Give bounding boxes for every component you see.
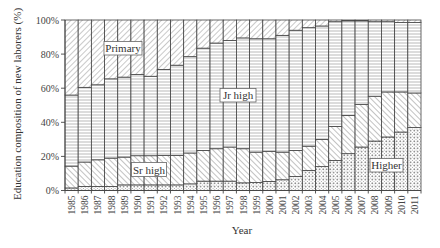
segment-higher [131,185,144,191]
bar-2001 [276,20,289,191]
segment-primary [78,20,91,87]
segment-primary [289,20,302,30]
y-axis-title: Education composition of new laborers (%… [11,8,24,200]
bar-2007 [355,20,368,191]
segment-higher [263,181,276,190]
segment-jr-high [118,77,131,157]
segment-sr-high [342,115,355,153]
segment-jr-high [263,39,276,152]
segment-higher [210,181,223,190]
segment-higher [78,186,91,190]
bar-1995 [197,20,210,191]
x-tick-label: 2011 [410,195,420,214]
bar-1999 [250,20,263,191]
segment-primary [355,20,368,21]
bar-1986 [78,20,91,191]
segment-jr-high [184,57,197,153]
segment-higher [197,181,210,190]
segment-primary [276,20,289,35]
x-tick-label: 2007 [357,195,367,214]
segment-sr-high [276,152,289,180]
segment-jr-high [368,22,381,97]
x-tick-label: 2004 [318,195,328,214]
x-tick-label: 2003 [304,195,314,214]
label-sr-high: Sr high [132,163,167,177]
segment-sr-high [78,162,91,186]
segment-higher [184,184,197,191]
segment-sr-high [355,105,368,147]
segment-jr-high [157,69,170,155]
segment-primary [197,20,210,48]
segment-jr-high [289,30,302,150]
bar-1994 [184,20,197,191]
x-axis-title: Year [232,224,253,236]
label-primary-text: Primary [105,42,141,54]
segment-sr-high [395,92,408,132]
y-axis: 0%20%40%60%80%100% [36,15,65,197]
segment-jr-high [395,23,408,92]
segment-primary [144,20,157,76]
bar-1998 [236,20,249,191]
segment-sr-high [236,149,249,183]
segment-primary [368,20,381,22]
bar-2011 [408,20,421,191]
segment-higher [223,181,236,190]
segment-higher [289,177,302,191]
segment-jr-high [197,48,210,150]
bar-1987 [91,20,104,191]
x-tick-label: 1991 [146,195,156,214]
segment-sr-high [368,96,381,141]
x-tick-label: 1995 [199,195,209,214]
segment-sr-high [263,151,276,181]
y-tick-label: 20% [41,151,59,162]
label-sr-high-text: Sr high [133,164,166,176]
segment-higher [105,186,118,190]
label-jr-high: Jr high [220,89,256,103]
segment-jr-high [342,21,355,116]
segment-jr-high [276,35,289,152]
segment-jr-high [408,23,421,93]
segment-higher [157,185,170,191]
segment-jr-high [329,22,342,127]
x-tick-label: 1992 [159,195,169,214]
segment-primary [91,20,104,85]
x-tick-label: 2005 [331,195,341,214]
segment-sr-high [316,139,329,166]
segment-jr-high [65,95,78,166]
segment-higher [302,170,315,190]
segment-jr-high [170,65,183,155]
segment-higher [355,147,368,190]
x-tick-label: 2006 [344,195,354,214]
segment-primary [236,20,249,38]
segment-sr-high [302,146,315,170]
segment-sr-high [289,150,302,176]
x-tick-label: 2001 [278,195,288,214]
segment-higher [276,180,289,191]
bar-1996 [210,20,223,191]
segment-primary [170,20,183,65]
x-tick-label: 2000 [265,195,275,214]
bar-1997 [223,20,236,191]
segment-jr-high [381,22,394,92]
segment-primary [223,20,236,40]
segment-higher [118,185,131,191]
segment-sr-high [105,158,118,186]
segment-sr-high [381,92,394,137]
x-tick-label: 2008 [370,195,380,214]
x-tick-label: 2002 [291,195,301,214]
bar-2004 [316,20,329,191]
segment-jr-high [91,85,104,160]
segment-sr-high [170,155,183,184]
label-higher: Higher [370,159,403,173]
segment-higher [250,182,263,190]
bar-1993 [170,20,183,191]
x-tick-label: 1985 [67,195,77,214]
segment-primary [329,20,342,22]
segment-sr-high [118,157,131,185]
y-tick-label: 0% [46,185,59,196]
segment-higher [91,186,104,190]
x-tick-label: 1987 [93,195,103,214]
segment-jr-high [355,21,368,105]
x-tick-label: 1990 [133,195,143,214]
stacked-bar-chart: 0%20%40%60%80%100% 198519861987198819891… [0,0,440,248]
